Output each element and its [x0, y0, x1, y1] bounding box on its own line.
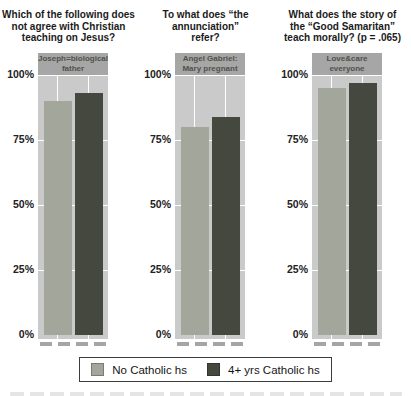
chart-title-line: refer?	[137, 32, 274, 44]
gridline	[38, 75, 108, 76]
y-axis-label: 25%	[0, 263, 34, 275]
plot-area	[175, 75, 245, 339]
bar-no-catholic-hs	[318, 88, 346, 335]
y-axis-label: 0%	[274, 328, 308, 340]
bar-4plus-yrs-catholic-hs	[212, 117, 240, 335]
bar-no-catholic-hs	[44, 101, 72, 335]
chart-title-line: teaching on Jesus?	[0, 32, 137, 44]
chart-title-line: teach morally? (p = .065)	[274, 32, 411, 44]
chart-title-line: the “Good Samaritan”	[274, 21, 411, 33]
category-header: Angel Gabriel: Mary pregnant	[175, 53, 245, 75]
bar-no-catholic-hs	[181, 127, 209, 335]
y-axis-label: 100%	[0, 68, 34, 80]
chart-title-line: Which of the following does	[0, 9, 137, 21]
x-tick	[177, 342, 189, 346]
category-header: Love&care everyone	[312, 53, 382, 75]
y-axis-label: 75%	[0, 133, 34, 145]
category-header-line: Mary pregnant	[175, 64, 245, 74]
category-header-line: Angel Gabriel:	[175, 54, 245, 64]
legend-swatch-4plus-yrs-catholic-hs	[207, 363, 220, 376]
y-axis-label: 50%	[137, 198, 171, 210]
x-tick	[94, 342, 106, 346]
category-header-line: father	[38, 64, 108, 74]
category-header-line: everyone	[312, 64, 382, 74]
legend: No Catholic hs 4+ yrs Catholic hs	[79, 357, 332, 382]
bar-group	[175, 117, 245, 335]
legend-label-no-catholic-hs: No Catholic hs	[112, 364, 187, 376]
chart-group-jesus-teaching: Which of the following does not agree wi…	[0, 0, 137, 348]
y-axis-label: 25%	[274, 263, 308, 275]
category-header-line: Love&care	[312, 54, 382, 64]
chart-title: To what does “the annunciation” refer?	[137, 0, 274, 50]
y-axis-label: 25%	[137, 263, 171, 275]
bar-group	[312, 83, 382, 335]
y-axis-label: 50%	[274, 198, 308, 210]
chart-group-good-samaritan: What does the story of the “Good Samarit…	[274, 0, 411, 348]
x-tick	[350, 342, 362, 346]
plot-panel: Joseph=biological father	[38, 53, 108, 346]
chart-title: What does the story of the “Good Samarit…	[274, 0, 411, 50]
y-axis-label: 75%	[274, 133, 308, 145]
x-tick	[40, 342, 52, 346]
x-tick	[76, 342, 88, 346]
y-axis-label: 100%	[274, 68, 308, 80]
legend-swatch-no-catholic-hs	[91, 363, 104, 376]
plot-area	[38, 75, 108, 339]
y-axis-label: 50%	[0, 198, 34, 210]
gridline	[175, 75, 245, 76]
plot-area	[312, 75, 382, 339]
x-tick	[213, 342, 225, 346]
plot-panel: Angel Gabriel: Mary pregnant	[175, 53, 245, 346]
chart-body: 100% 75% 50% 25% 0% Joseph=biological fa…	[0, 53, 137, 348]
x-tick	[368, 342, 380, 346]
x-tick	[332, 342, 344, 346]
y-axis-label: 100%	[137, 68, 171, 80]
x-axis-ticks	[38, 342, 108, 346]
x-tick	[195, 342, 207, 346]
chart-group-annunciation: To what does “the annunciation” refer? 1…	[137, 0, 274, 348]
plot-panel: Love&care everyone	[312, 53, 382, 346]
chart-title-line: not agree with Christian	[0, 21, 137, 33]
caption-fragment-cut-off	[10, 392, 402, 396]
chart-body: 100% 75% 50% 25% 0% Angel Gabriel: Mary …	[137, 53, 274, 348]
legend-label-4plus-yrs-catholic-hs: 4+ yrs Catholic hs	[228, 364, 320, 376]
chart-title-line: What does the story of	[274, 9, 411, 21]
chart-body: 100% 75% 50% 25% 0% Love&care everyone	[274, 53, 411, 348]
chart-title-line: annunciation”	[137, 21, 274, 33]
bar-group	[38, 93, 108, 335]
x-axis-ticks	[175, 342, 245, 346]
x-axis-ticks	[312, 342, 382, 346]
x-tick	[314, 342, 326, 346]
category-header-line: Joseph=biological	[38, 54, 108, 64]
gridline	[312, 75, 382, 76]
bar-4plus-yrs-catholic-hs	[349, 83, 377, 335]
x-tick	[231, 342, 243, 346]
bar-4plus-yrs-catholic-hs	[75, 93, 103, 335]
chart-title: Which of the following does not agree wi…	[0, 0, 137, 50]
x-tick	[58, 342, 70, 346]
y-axis-label: 0%	[137, 328, 171, 340]
charts-row: Which of the following does not agree wi…	[0, 0, 411, 348]
chart-title-line: To what does “the	[137, 9, 274, 21]
y-axis-label: 75%	[137, 133, 171, 145]
y-axis-label: 0%	[0, 328, 34, 340]
category-header: Joseph=biological father	[38, 53, 108, 75]
